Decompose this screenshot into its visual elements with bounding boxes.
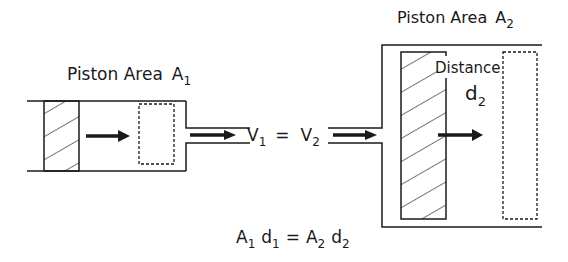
left-piston [44,101,79,171]
area-equation: A1d1=A2d2 [236,227,350,251]
right-nozzle-arrow-icon [333,130,377,140]
right-piston-final-position [503,52,537,219]
left-piston-arrow-icon [86,130,130,142]
left-piston-final-position [139,104,174,164]
distance-label: Distance [435,59,501,77]
hydraulic-diagram: Piston AreaA1 Piston AreaA2 Distance d2 … [0,0,568,262]
velocity-equation: V1=V2 [247,125,320,149]
right-piston-area-label: Piston AreaA2 [397,8,514,31]
left-nozzle-arrow-icon [190,130,236,140]
left-piston-area-label: Piston AreaA1 [67,64,191,88]
distance-symbol: d2 [465,81,486,109]
